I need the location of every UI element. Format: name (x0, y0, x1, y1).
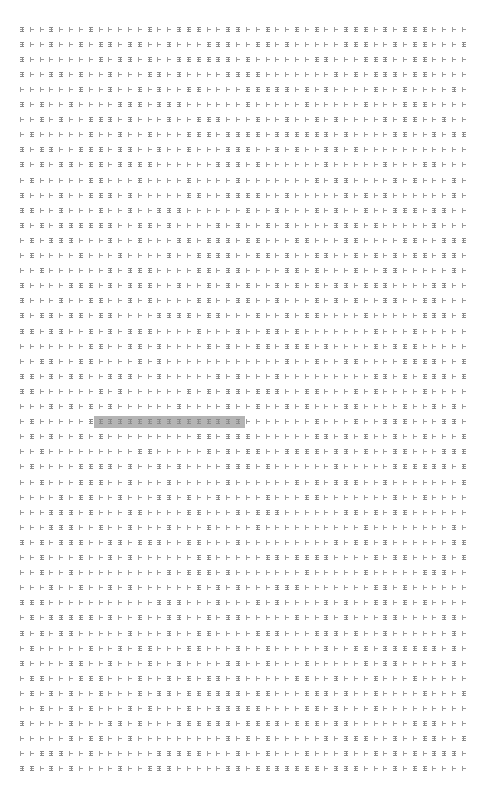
grid-cell[interactable] (292, 144, 302, 156)
grid-cell[interactable] (439, 83, 449, 95)
grid-cell[interactable] (351, 718, 361, 730)
grid-cell[interactable] (400, 718, 410, 730)
grid-cell[interactable] (390, 295, 400, 307)
grid-cell[interactable] (341, 748, 351, 760)
grid-cell[interactable] (410, 99, 420, 111)
grid-cell[interactable] (223, 99, 233, 111)
grid-cell[interactable] (449, 401, 459, 413)
grid-cell[interactable] (194, 763, 204, 775)
grid-cell[interactable] (135, 219, 145, 231)
grid-cell[interactable] (439, 189, 449, 201)
grid-cell[interactable] (459, 416, 469, 428)
grid-cell[interactable] (115, 144, 125, 156)
grid-cell[interactable] (263, 385, 273, 397)
grid-cell[interactable] (105, 250, 115, 262)
grid-cell[interactable] (37, 763, 47, 775)
grid-cell[interactable] (37, 385, 47, 397)
grid-cell[interactable] (361, 295, 371, 307)
grid-cell[interactable] (66, 582, 76, 594)
grid-cell[interactable] (164, 280, 174, 292)
grid-cell[interactable] (400, 506, 410, 518)
grid-cell[interactable] (125, 340, 135, 352)
grid-cell[interactable] (439, 672, 449, 684)
grid-cell[interactable] (213, 536, 223, 548)
grid-cell[interactable] (96, 718, 106, 730)
grid-cell[interactable] (223, 250, 233, 262)
grid-cell[interactable] (56, 340, 66, 352)
grid-cell[interactable] (400, 582, 410, 594)
grid-cell[interactable] (86, 627, 96, 639)
grid-cell[interactable] (361, 53, 371, 65)
grid-cell[interactable] (204, 83, 214, 95)
grid-cell[interactable] (380, 461, 390, 473)
grid-cell[interactable] (331, 431, 341, 443)
grid-cell[interactable] (243, 718, 253, 730)
grid-cell[interactable] (27, 68, 37, 80)
grid-cell[interactable] (46, 703, 56, 715)
grid-cell[interactable] (459, 642, 469, 654)
grid-cell[interactable] (125, 612, 135, 624)
grid-cell[interactable] (223, 129, 233, 141)
grid-cell[interactable] (371, 53, 381, 65)
grid-cell[interactable] (27, 431, 37, 443)
grid-cell[interactable] (105, 567, 115, 579)
grid-cell[interactable] (86, 672, 96, 684)
grid-cell[interactable] (410, 612, 420, 624)
grid-cell[interactable] (135, 280, 145, 292)
grid-cell[interactable] (223, 38, 233, 50)
grid-cell[interactable] (37, 612, 47, 624)
grid-cell[interactable] (420, 703, 430, 715)
grid-cell[interactable] (331, 219, 341, 231)
grid-cell[interactable] (115, 718, 125, 730)
grid-cell[interactable] (449, 506, 459, 518)
grid-cell[interactable] (125, 204, 135, 216)
grid-cell[interactable] (125, 521, 135, 533)
grid-cell[interactable] (233, 446, 243, 458)
grid-cell[interactable] (263, 189, 273, 201)
grid-cell[interactable] (86, 174, 96, 186)
grid-cell[interactable] (380, 310, 390, 322)
grid-cell[interactable] (145, 506, 155, 518)
grid-cell[interactable] (46, 612, 56, 624)
grid-cell[interactable] (459, 83, 469, 95)
grid-cell[interactable] (380, 219, 390, 231)
grid-cell[interactable] (17, 53, 27, 65)
grid-cell[interactable] (86, 295, 96, 307)
grid-cell[interactable] (184, 703, 194, 715)
grid-cell[interactable] (361, 38, 371, 50)
grid-cell[interactable] (361, 597, 371, 609)
grid-cell[interactable] (213, 552, 223, 564)
grid-cell[interactable] (46, 99, 56, 111)
grid-cell[interactable] (272, 552, 282, 564)
grid-cell[interactable] (125, 446, 135, 458)
grid-cell[interactable] (76, 250, 86, 262)
grid-cell[interactable] (312, 521, 322, 533)
grid-cell[interactable] (449, 552, 459, 564)
grid-cell[interactable] (282, 431, 292, 443)
grid-cell[interactable] (204, 718, 214, 730)
grid-cell[interactable] (429, 446, 439, 458)
grid-cell[interactable] (351, 703, 361, 715)
grid-cell[interactable] (233, 174, 243, 186)
grid-cell[interactable] (361, 506, 371, 518)
grid-cell[interactable] (194, 672, 204, 684)
grid-cell[interactable] (292, 461, 302, 473)
grid-cell[interactable] (56, 355, 66, 367)
grid-cell[interactable] (96, 159, 106, 171)
grid-cell[interactable] (135, 627, 145, 639)
grid-cell[interactable] (96, 521, 106, 533)
grid-cell[interactable] (321, 748, 331, 760)
grid-cell[interactable] (27, 310, 37, 322)
grid-cell[interactable] (351, 23, 361, 35)
grid-cell[interactable] (96, 99, 106, 111)
grid-cell[interactable] (204, 114, 214, 126)
grid-cell[interactable] (312, 38, 322, 50)
grid-cell[interactable] (56, 310, 66, 322)
grid-cell[interactable] (420, 53, 430, 65)
grid-cell[interactable] (429, 370, 439, 382)
grid-cell[interactable] (331, 174, 341, 186)
grid-cell[interactable] (56, 114, 66, 126)
grid-cell[interactable] (145, 627, 155, 639)
grid-cell[interactable] (302, 114, 312, 126)
grid-cell[interactable] (194, 53, 204, 65)
